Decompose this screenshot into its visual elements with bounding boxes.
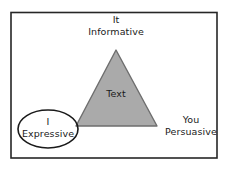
corner-label-top-appeal: Informative	[78, 26, 154, 38]
triangle-center-label-text: Text	[92, 88, 140, 100]
corner-label-bottom-left-appeal: Expressive	[19, 128, 77, 140]
rhetorical-triangle-figure: It Informative Text I Expressive You Per…	[0, 0, 229, 172]
corner-label-bottom-left-pronoun: I	[19, 116, 77, 128]
corner-label-top-pronoun: It	[78, 14, 154, 26]
corner-label-bottom-right-pronoun: You	[160, 114, 222, 126]
corner-label-top: It Informative	[78, 14, 154, 37]
triangle-center-label: Text	[92, 88, 140, 100]
corner-label-bottom-left: I Expressive	[19, 116, 77, 139]
corner-label-bottom-right-appeal: Persuasive	[160, 126, 222, 138]
corner-label-bottom-right: You Persuasive	[160, 114, 222, 137]
